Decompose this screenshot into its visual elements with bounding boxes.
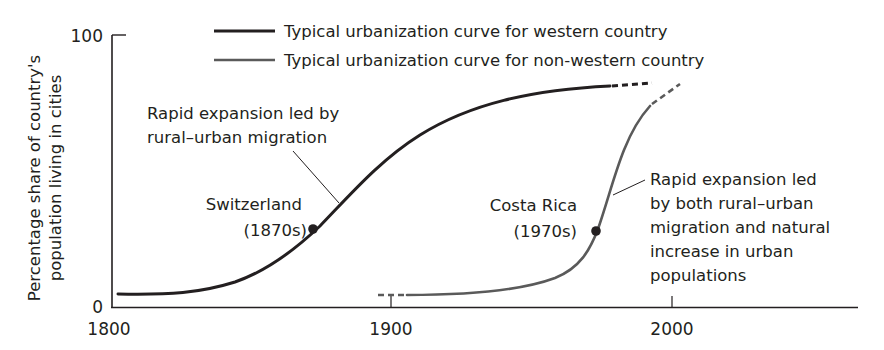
x-tick-label-1900: 1900 [369, 319, 412, 339]
switzerland-date: (1870s) [244, 221, 307, 240]
western-expansion-line1: Rapid expansion led by [147, 104, 340, 123]
non-western-expansion-line3: migration and natural [650, 218, 830, 237]
switzerland-label: Switzerland [206, 195, 302, 214]
costa-rica-date: (1970s) [514, 222, 577, 241]
legend-label-non-western: Typical urbanization curve for non-weste… [283, 51, 705, 70]
legend-label-western: Typical urbanization curve for western c… [283, 22, 668, 41]
non-western-expansion-line4: increase in urban [650, 242, 793, 261]
legend: Typical urbanization curve for western c… [214, 22, 705, 70]
western-expansion-line2: rural–urban migration [147, 128, 327, 147]
y-axis-title-line2: population living in cities [46, 75, 65, 281]
non-western-expansion-line5: populations [650, 266, 746, 285]
x-tick-label-2000: 2000 [650, 319, 693, 339]
non-western-projection-dashed [652, 84, 680, 104]
series-non-western [378, 84, 680, 295]
costa-rica-label: Costa Rica [490, 196, 577, 215]
urbanization-chart: 100 0 1800 1900 2000 Percentage share of… [0, 0, 884, 350]
non-western-expansion-line2: by both rural–urban [650, 194, 813, 213]
x-tick-label-1800: 1800 [87, 319, 130, 339]
switzerland-marker [308, 224, 318, 234]
western-projection-dashed [612, 83, 652, 86]
y-tick-label-0: 0 [92, 297, 103, 317]
non-western-expansion-line1: Rapid expansion led [650, 170, 817, 189]
costa-rica-marker [591, 226, 601, 236]
y-axis-title: Percentage share of country's population… [25, 55, 65, 301]
y-axis-title-line1: Percentage share of country's [25, 55, 44, 301]
non-western-leader-line [613, 180, 645, 195]
annotations: Rapid expansion led by rural–urban migra… [147, 104, 830, 285]
y-tick-label-100: 100 [71, 26, 103, 46]
